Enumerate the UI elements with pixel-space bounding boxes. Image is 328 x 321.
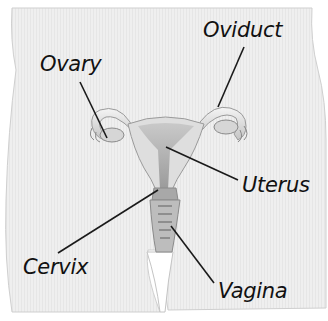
right-ovary: [214, 120, 238, 134]
reproductive-diagram: Ovary Oviduct Uterus Cervix Vagina: [0, 0, 328, 321]
uterus-label: Uterus: [242, 175, 310, 196]
cervix-label: Cervix: [23, 257, 88, 278]
vagina-label: Vagina: [218, 281, 287, 302]
ovary-label: Ovary: [40, 54, 101, 75]
cervix-shape: [152, 188, 178, 200]
oviduct-label: Oviduct: [203, 20, 282, 41]
